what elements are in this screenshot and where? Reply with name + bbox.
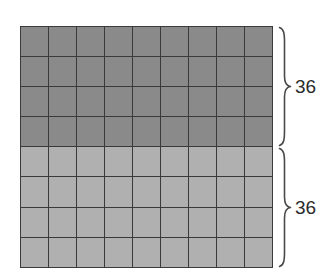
grid-cell [161, 237, 189, 267]
grid-cell [161, 57, 189, 87]
grid-cell [161, 147, 189, 177]
grid-cell [189, 237, 217, 267]
grid-cell [245, 27, 273, 57]
grid-cell [21, 27, 49, 57]
grid-cell [217, 207, 245, 237]
grid-row [21, 57, 273, 87]
grid-cell [49, 207, 77, 237]
grid-cell [161, 117, 189, 147]
grid-cell [133, 237, 161, 267]
grid-cell [105, 87, 133, 117]
grid-cell [49, 27, 77, 57]
grid-row [21, 177, 273, 207]
grid-cell [49, 57, 77, 87]
grid-cell [133, 27, 161, 57]
grid-row [21, 117, 273, 147]
grid-cell [217, 177, 245, 207]
grid-cell [77, 87, 105, 117]
grid-cell [133, 147, 161, 177]
grid-cell [77, 177, 105, 207]
grid-cell [161, 87, 189, 117]
grid-cell [105, 147, 133, 177]
grid-cell [77, 207, 105, 237]
grid-cell [105, 57, 133, 87]
grid-cell [21, 87, 49, 117]
upper-brace-icon [278, 26, 292, 147]
grid-cell [77, 237, 105, 267]
upper-brace-label: 36 [295, 77, 316, 96]
figure-canvas: 36 36 [0, 0, 327, 280]
grid-container [20, 26, 273, 268]
grid-row [21, 87, 273, 117]
grid-cell [161, 27, 189, 57]
grid-cell [161, 177, 189, 207]
lower-brace-icon [278, 147, 292, 268]
grid-cell [21, 147, 49, 177]
grid-row [21, 27, 273, 57]
grid-cell [245, 207, 273, 237]
grid-cell [77, 57, 105, 87]
grid-cell [189, 177, 217, 207]
grid-cell [217, 27, 245, 57]
grid-cell [245, 237, 273, 267]
grid-cell [245, 87, 273, 117]
grid-cell [189, 207, 217, 237]
grid-cell [133, 207, 161, 237]
grid-cell [49, 147, 77, 177]
grid-cell [217, 87, 245, 117]
grid-cell [217, 147, 245, 177]
grid-cell [189, 27, 217, 57]
grid-cell [49, 87, 77, 117]
grid-cell [21, 207, 49, 237]
grid-cell [105, 27, 133, 57]
square-grid [20, 26, 273, 268]
grid-cell [77, 147, 105, 177]
grid-cell [245, 177, 273, 207]
upper-brace-group: 36 [278, 26, 316, 147]
lower-brace-label: 36 [295, 198, 316, 217]
grid-cell [105, 207, 133, 237]
grid-cell [21, 117, 49, 147]
grid-cell [189, 57, 217, 87]
grid-cell [77, 117, 105, 147]
grid-cell [105, 177, 133, 207]
grid-cell [133, 57, 161, 87]
grid-cell [49, 237, 77, 267]
grid-row [21, 207, 273, 237]
grid-row [21, 237, 273, 267]
grid-cell [49, 177, 77, 207]
grid-cell [21, 237, 49, 267]
grid-cell [133, 87, 161, 117]
grid-cell [105, 237, 133, 267]
grid-cell [245, 57, 273, 87]
grid-cell [189, 117, 217, 147]
grid-cell [245, 117, 273, 147]
grid-cell [217, 237, 245, 267]
grid-cell [49, 117, 77, 147]
grid-cell [217, 57, 245, 87]
grid-row [21, 147, 273, 177]
grid-cell [77, 27, 105, 57]
grid-cell [189, 87, 217, 117]
grid-cell [245, 147, 273, 177]
grid-cell [105, 117, 133, 147]
grid-cell [161, 207, 189, 237]
grid-cell [21, 177, 49, 207]
lower-brace-group: 36 [278, 147, 316, 268]
grid-cell [133, 177, 161, 207]
grid-body [21, 27, 273, 268]
grid-cell [133, 117, 161, 147]
grid-cell [189, 147, 217, 177]
grid-cell [21, 57, 49, 87]
grid-cell [217, 117, 245, 147]
